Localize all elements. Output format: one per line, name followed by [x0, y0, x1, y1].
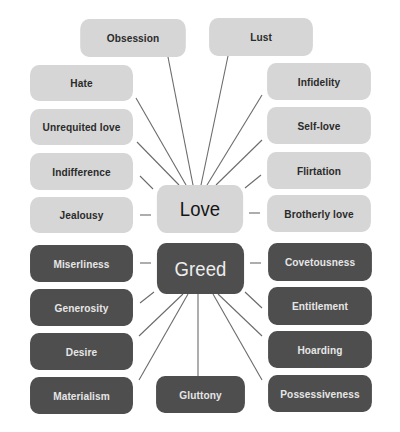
node-label: Miserliness — [53, 258, 109, 270]
love-node-unrequited-love: Unrequited love — [30, 109, 133, 145]
connector-line — [139, 294, 183, 336]
node-label: Hoarding — [297, 344, 342, 356]
connector-line — [140, 292, 154, 303]
connector-line — [245, 292, 262, 308]
connector-line — [140, 176, 153, 189]
node-label: Entitlement — [292, 300, 348, 312]
connector-line — [139, 294, 188, 380]
love-node-brotherly-love: Brotherly love — [267, 195, 371, 232]
connector-line — [137, 142, 179, 185]
hub-love: Love — [157, 185, 243, 233]
connector-line — [207, 95, 262, 185]
node-label: Brotherly love — [284, 208, 353, 220]
greed-node-gluttony: Gluttony — [156, 376, 245, 413]
node-label: Lust — [250, 31, 272, 43]
node-label: Obsession — [107, 32, 160, 44]
love-node-obsession: Obsession — [80, 19, 186, 57]
greed-node-materialism: Materialism — [30, 377, 133, 414]
connector-line — [136, 98, 186, 185]
love-node-self-love: Self-love — [267, 107, 371, 144]
greed-node-possessiveness: Possessiveness — [268, 375, 372, 412]
greed-node-desire: Desire — [30, 333, 133, 370]
connector-line — [218, 294, 262, 336]
connector-line — [201, 56, 228, 185]
connector-line — [245, 175, 261, 188]
connector-line — [213, 294, 262, 380]
hub-love-label: Love — [180, 197, 220, 221]
love-node-hate: Hate — [30, 65, 133, 101]
love-node-flirtation: Flirtation — [267, 152, 371, 189]
node-label: Covetousness — [285, 256, 355, 268]
greed-node-entitlement: Entitlement — [268, 287, 372, 325]
concept-diagram: Love Greed Obsession Lust Hate Infidelit… — [0, 0, 400, 432]
node-label: Generosity — [55, 302, 109, 314]
connector-line — [168, 57, 193, 185]
greed-node-miserliness: Miserliness — [30, 245, 133, 282]
node-label: Flirtation — [297, 165, 341, 177]
love-node-infidelity: Infidelity — [267, 63, 371, 100]
greed-node-generosity: Generosity — [30, 289, 133, 326]
node-label: Infidelity — [298, 76, 340, 88]
hub-greed: Greed — [157, 243, 244, 294]
node-label: Unrequited love — [43, 121, 121, 133]
love-node-lust: Lust — [209, 18, 313, 56]
greed-node-hoarding: Hoarding — [268, 331, 372, 368]
node-label: Desire — [66, 346, 97, 358]
node-label: Materialism — [53, 390, 110, 402]
node-label: Gluttony — [179, 389, 221, 401]
node-label: Indifference — [52, 166, 110, 178]
greed-node-covetousness: Covetousness — [268, 243, 372, 281]
node-label: Possessiveness — [280, 388, 359, 400]
connector-line — [216, 140, 262, 185]
node-label: Jealousy — [59, 209, 103, 221]
node-label: Self-love — [298, 120, 341, 132]
hub-greed-label: Greed — [175, 257, 227, 281]
node-label: Hate — [70, 77, 92, 89]
love-node-jealousy: Jealousy — [30, 197, 133, 233]
love-node-indifference: Indifference — [30, 153, 133, 190]
